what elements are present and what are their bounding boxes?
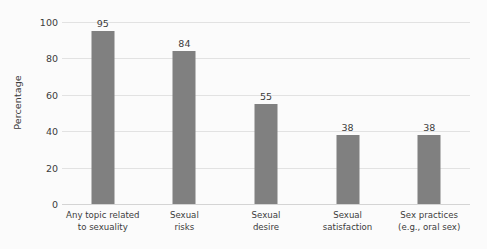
bar-slot: 38: [388, 22, 470, 204]
x-tick-label: Sex practices(e.g., oral sex): [381, 210, 477, 233]
bar[interactable]: [254, 104, 277, 204]
y-axis-title-text: Percentage: [12, 75, 23, 129]
bar-value-label: 55: [260, 91, 272, 102]
x-tick-label-line: Any topic related: [66, 210, 139, 220]
y-axis-tick-labels: 020406080100: [30, 22, 58, 204]
y-tick-label: 100: [32, 17, 58, 28]
y-tick-label: 40: [32, 126, 58, 137]
x-tick-label-line: (e.g., oral sex): [381, 222, 477, 234]
bar[interactable]: [173, 51, 196, 204]
bar-value-label: 38: [342, 122, 354, 133]
y-tick-label: 80: [32, 53, 58, 64]
y-tick-label: 60: [32, 89, 58, 100]
bar-value-label: 38: [423, 122, 435, 133]
bar-value-label: 95: [97, 18, 109, 29]
bar[interactable]: [418, 135, 441, 204]
bar-value-label: 84: [178, 38, 190, 49]
bar-slot: 55: [225, 22, 307, 204]
bar[interactable]: [336, 135, 359, 204]
y-axis-title: Percentage: [0, 0, 34, 204]
x-tick-label-line: Sexual: [333, 210, 362, 220]
bar-slot: 38: [307, 22, 389, 204]
y-tick-label: 20: [32, 162, 58, 173]
plot-area: 9584553838: [62, 22, 470, 204]
x-tick-label-line: Sexual: [170, 210, 199, 220]
x-tick-label-line: Sexual: [252, 210, 281, 220]
bar-chart: Percentage 020406080100 9584553838 Any t…: [0, 0, 487, 249]
bar-slot: 95: [62, 22, 144, 204]
x-axis-tick-labels: Any topic relatedto sexualitySexualrisks…: [62, 210, 470, 246]
gridline-0: [62, 204, 470, 205]
bar-slot: 84: [144, 22, 226, 204]
bar[interactable]: [91, 31, 114, 204]
y-tick-label: 0: [32, 199, 58, 210]
x-tick-label-line: Sex practices: [400, 210, 458, 220]
